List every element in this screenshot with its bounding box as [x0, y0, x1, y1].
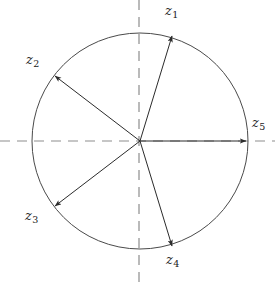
vector-z2: [55, 76, 140, 141]
unit-circle-figure: z1 z2 z3 z4 z5: [0, 0, 275, 287]
vector-label-z5: z5: [252, 116, 265, 129]
vector-label-z2: z2: [26, 53, 39, 66]
vector-label-z4: z4: [166, 253, 179, 266]
vector-label-z1: z1: [165, 4, 178, 17]
figure-canvas: [0, 0, 275, 287]
vector-z1: [140, 36, 172, 141]
vector-z3: [55, 141, 140, 206]
vector-label-z3: z3: [25, 209, 38, 222]
vector-z4: [140, 141, 172, 246]
